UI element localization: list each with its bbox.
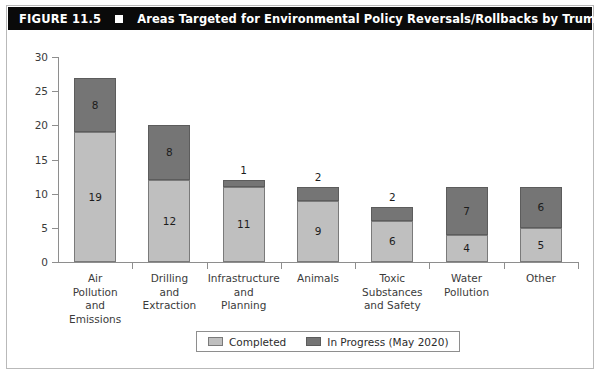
bar-value-label-completed: 4 — [463, 243, 470, 254]
x-axis-tick — [355, 263, 356, 269]
figure-title-text: Areas Targeted for Environmental Policy … — [137, 12, 600, 26]
x-axis-category-label: Animals — [281, 272, 355, 286]
bar-group[interactable]: 74 — [446, 187, 488, 262]
y-axis-tick — [52, 262, 58, 263]
x-axis-tick — [578, 263, 579, 269]
y-axis-tick — [52, 57, 58, 58]
square-bullet-icon — [115, 15, 123, 23]
bar-group[interactable]: 819 — [74, 78, 116, 262]
y-axis-tick-label: 25 — [35, 85, 48, 97]
y-axis-tick — [52, 125, 58, 126]
bar-segment-completed[interactable]: 11 — [223, 187, 265, 262]
bar-value-label-in-progress: 8 — [166, 147, 173, 158]
y-axis-tick-label: 30 — [35, 51, 48, 63]
bar-segment-completed[interactable]: 19 — [74, 132, 116, 262]
x-axis-tick — [207, 263, 208, 269]
bar-group[interactable]: 812 — [148, 125, 190, 262]
legend-swatch-completed — [208, 337, 223, 346]
bar-segment-in-progress[interactable]: 2 — [297, 187, 339, 201]
x-axis-tick — [504, 263, 505, 269]
legend-label-in-progress: In Progress (May 2020) — [327, 336, 448, 348]
x-axis-category-label: Infrastructure and Planning — [207, 272, 281, 313]
chart-legend: Completed In Progress (May 2020) — [196, 331, 460, 352]
bar-group[interactable]: 65 — [520, 187, 562, 262]
y-axis-tick — [52, 91, 58, 92]
y-axis-tick-label: 20 — [35, 119, 48, 131]
bar-value-label-in-progress: 6 — [538, 202, 545, 213]
x-axis-tick — [132, 263, 133, 269]
y-axis-tick-label: 10 — [35, 188, 48, 200]
bar-value-label-completed: 12 — [163, 216, 176, 227]
figure-container: FIGURE 11.5 Areas Targeted for Environme… — [0, 0, 600, 374]
bar-segment-completed[interactable]: 6 — [371, 221, 413, 262]
x-axis-line — [58, 262, 579, 263]
bar-segment-in-progress[interactable]: 8 — [74, 78, 116, 133]
bar-segment-in-progress[interactable]: 2 — [371, 207, 413, 221]
legend-label-completed: Completed — [229, 336, 286, 348]
x-axis-category-label: Water Pollution — [429, 272, 503, 299]
x-axis-category-label: Other — [504, 272, 578, 286]
bar-value-label-in-progress: 2 — [315, 172, 322, 183]
y-axis-tick — [52, 160, 58, 161]
bar-group[interactable]: 111 — [223, 180, 265, 262]
bar-segment-completed[interactable]: 12 — [148, 180, 190, 262]
bar-value-label-in-progress: 8 — [92, 100, 99, 111]
bar-value-label-completed: 11 — [237, 219, 250, 230]
y-axis-tick — [52, 194, 58, 195]
x-axis-tick — [429, 263, 430, 269]
bar-value-label-completed: 5 — [538, 240, 545, 251]
figure-title-bar: FIGURE 11.5 Areas Targeted for Environme… — [8, 7, 592, 30]
bar-value-label-in-progress: 7 — [463, 206, 470, 217]
bar-value-label-completed: 19 — [88, 192, 101, 203]
y-axis-tick-label: 5 — [41, 222, 48, 234]
x-axis-category-label: Air Pollution and Emissions — [58, 272, 132, 326]
legend-swatch-in-progress — [306, 337, 321, 346]
bar-segment-in-progress[interactable]: 8 — [148, 125, 190, 180]
bar-group[interactable]: 26 — [371, 207, 413, 262]
bar-value-label-in-progress: 2 — [389, 192, 396, 203]
legend-item-completed: Completed — [208, 336, 286, 348]
bar-segment-in-progress[interactable]: 7 — [446, 187, 488, 235]
y-axis-tick-labels: 051015202530 — [0, 0, 48, 374]
bar-segment-completed[interactable]: 9 — [297, 201, 339, 263]
bar-value-label-completed: 6 — [389, 236, 396, 247]
x-axis-category-label: Drilling and Extraction — [132, 272, 206, 313]
y-axis-tick-label: 0 — [41, 256, 48, 268]
bar-value-label-completed: 9 — [315, 226, 322, 237]
x-axis-category-label: Toxic Substances and Safety — [355, 272, 429, 313]
plot-area: 81981211129267465 — [58, 57, 578, 262]
bar-segment-in-progress[interactable]: 1 — [223, 180, 265, 187]
bar-group[interactable]: 29 — [297, 187, 339, 262]
bar-segment-in-progress[interactable]: 6 — [520, 187, 562, 228]
legend-item-in-progress: In Progress (May 2020) — [306, 336, 448, 348]
bar-value-label-in-progress: 1 — [240, 165, 247, 176]
y-axis-tick — [52, 228, 58, 229]
bar-segment-completed[interactable]: 5 — [520, 228, 562, 262]
bar-segment-completed[interactable]: 4 — [446, 235, 488, 262]
x-axis-tick — [281, 263, 282, 269]
y-axis-tick-label: 15 — [35, 154, 48, 166]
